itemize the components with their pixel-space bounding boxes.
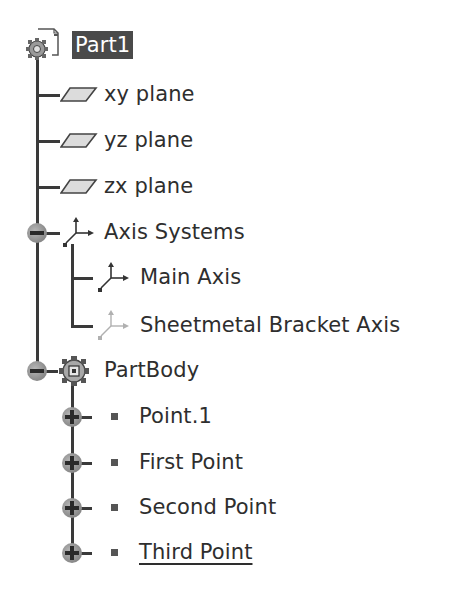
tree-branch-line (46, 232, 60, 235)
tree-branch-line (71, 325, 93, 328)
plus-icon (62, 453, 82, 473)
tree-node-label: Axis Systems (104, 219, 245, 245)
point-icon (111, 549, 118, 556)
body-gear-icon (56, 353, 96, 389)
axis-system-faded-icon (95, 308, 135, 344)
tree-node-label: Third Point (139, 539, 252, 565)
tree-node-label: Part1 (72, 31, 133, 59)
tree-node-label: xy plane (104, 81, 195, 107)
collapse-toggle-axis-systems[interactable] (27, 223, 47, 243)
tree-branch-line (71, 277, 93, 280)
specification-tree: Part1 xy plane yz plane zx plane (0, 0, 452, 595)
expand-toggle-point-1[interactable] (62, 407, 82, 427)
tree-node-label: First Point (139, 449, 243, 475)
plane-icon (60, 85, 98, 105)
tree-node-label: Point.1 (139, 403, 212, 429)
point-icon (111, 413, 118, 420)
expand-toggle-second-point[interactable] (62, 498, 82, 518)
tree-node-label: PartBody (104, 357, 199, 383)
plus-icon (62, 498, 82, 518)
tree-node-label: Sheetmetal Bracket Axis (140, 312, 400, 338)
point-icon (111, 459, 118, 466)
plane-icon (60, 131, 98, 151)
expand-toggle-first-point[interactable] (62, 453, 82, 473)
collapse-toggle-partbody[interactable] (27, 361, 47, 381)
tree-node-label: zx plane (104, 173, 193, 199)
tree-node-label: Main Axis (140, 264, 241, 290)
plus-icon (62, 543, 82, 563)
point-icon (111, 504, 118, 511)
tree-trunk-line (36, 56, 39, 372)
tree-branch-line (36, 140, 60, 143)
tree-branch-line (36, 186, 60, 189)
minus-icon (27, 361, 47, 381)
part-gear-document-icon (24, 27, 72, 63)
tree-subtrunk-line (71, 244, 74, 328)
plus-icon (62, 407, 82, 427)
minus-icon (27, 223, 47, 243)
tree-node-label: Second Point (139, 494, 276, 520)
tree-node-label: yz plane (104, 127, 193, 153)
plane-icon (60, 177, 98, 197)
axis-system-icon (60, 215, 100, 251)
tree-branch-line (36, 94, 60, 97)
expand-toggle-third-point[interactable] (62, 543, 82, 563)
axis-system-icon (95, 260, 135, 296)
